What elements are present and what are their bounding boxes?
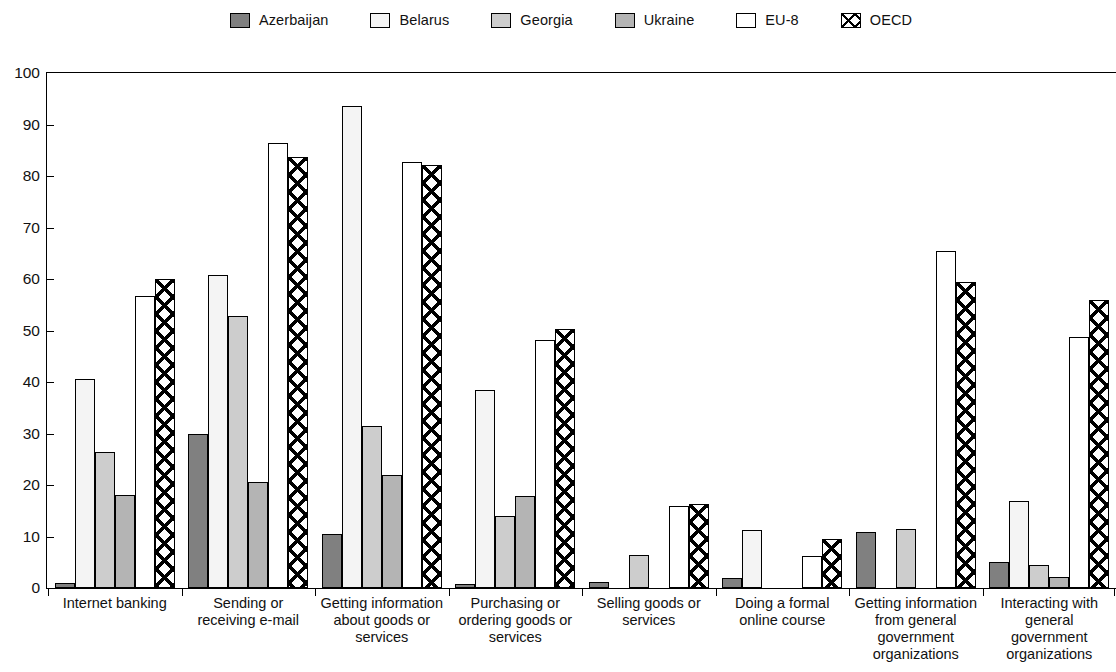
bar-belarus[interactable] (75, 379, 95, 588)
y-axis-tick-label: 90 (2, 117, 40, 133)
bar-georgia[interactable] (629, 555, 649, 588)
legend-item-azerbaijan[interactable]: Azerbaijan (230, 13, 329, 28)
x-axis-category-label-line: Purchasing or (449, 595, 583, 612)
legend-item-georgia[interactable]: Georgia (491, 13, 572, 28)
x-axis-category-label: Internet banking (48, 595, 182, 612)
x-axis-category-label-line: Selling goods or (582, 595, 716, 612)
legend-label-georgia: Georgia (520, 13, 572, 28)
x-axis-category-label-line: Doing a formal (716, 595, 850, 612)
bar-azerbaijan[interactable] (188, 434, 208, 588)
y-axis-tick-label: 80 (2, 168, 40, 184)
x-axis-category-label: Getting informationfrom generalgovernmen… (849, 595, 983, 663)
bar-oecd[interactable] (155, 279, 175, 589)
x-axis-category-label: Purchasing orordering goods orservices (449, 595, 583, 646)
bar-eu8[interactable] (936, 251, 956, 588)
bar-ukraine[interactable] (515, 496, 535, 588)
bar-eu8[interactable] (135, 296, 155, 588)
bar-azerbaijan[interactable] (322, 534, 342, 588)
bar-oecd[interactable] (822, 539, 842, 588)
bar-belarus[interactable] (1009, 501, 1029, 588)
bar-group (322, 73, 442, 588)
bar-group (856, 73, 976, 588)
x-axis-category-label-line: organizations (849, 646, 983, 663)
bar-eu8[interactable] (268, 143, 288, 588)
legend-label-eu8: EU-8 (765, 13, 798, 28)
bar-oecd[interactable] (689, 504, 709, 588)
y-axis-tick-mark (46, 228, 54, 229)
legend-label-belarus: Belarus (399, 13, 449, 28)
bar-oecd[interactable] (1089, 300, 1109, 588)
bar-belarus[interactable] (742, 530, 762, 588)
bar-ukraine[interactable] (248, 482, 268, 588)
legend-item-oecd[interactable]: OECD (841, 13, 912, 28)
bar-ukraine[interactable] (1049, 577, 1069, 588)
bar-eu8[interactable] (802, 556, 822, 588)
bar-azerbaijan[interactable] (856, 532, 876, 588)
legend-swatch-ukraine-icon (615, 13, 635, 28)
bar-ukraine[interactable] (115, 495, 135, 588)
chart-legend: AzerbaijanBelarusGeorgiaUkraineEU-8OECD (0, 0, 1116, 40)
y-axis-tick-mark (46, 485, 54, 486)
bar-belarus[interactable] (475, 390, 495, 588)
bar-oecd[interactable] (422, 165, 442, 588)
legend-item-belarus[interactable]: Belarus (370, 13, 449, 28)
bar-belarus[interactable] (342, 106, 362, 588)
plot-area (48, 73, 1116, 588)
x-axis-tick-mark (1114, 588, 1115, 596)
bar-group (722, 73, 842, 588)
x-axis-category-label-line: receiving e-mail (182, 612, 316, 629)
bar-azerbaijan[interactable] (722, 578, 742, 588)
bar-azerbaijan[interactable] (55, 583, 75, 588)
legend-swatch-belarus-icon (370, 13, 390, 28)
y-axis-tick-label: 40 (2, 374, 40, 390)
bar-azerbaijan[interactable] (455, 584, 475, 588)
bar-georgia[interactable] (1029, 565, 1049, 588)
y-axis-tick-label: 60 (2, 271, 40, 287)
x-axis-category-label-line: general (983, 612, 1116, 629)
x-axis-category-label-line: Interacting with (983, 595, 1116, 612)
x-axis-category-label: Selling goods orservices (582, 595, 716, 629)
bar-eu8[interactable] (402, 162, 422, 588)
y-axis-tick-mark (46, 434, 54, 435)
legend-item-eu8[interactable]: EU-8 (736, 13, 798, 28)
x-axis-category-label-line: Getting information (849, 595, 983, 612)
legend-swatch-azerbaijan-icon (230, 13, 250, 28)
legend-label-azerbaijan: Azerbaijan (259, 13, 329, 28)
x-axis-category-label: Doing a formalonline course (716, 595, 850, 629)
bar-oecd[interactable] (288, 157, 308, 588)
bar-eu8[interactable] (669, 506, 689, 588)
bar-eu8[interactable] (535, 340, 555, 588)
bar-georgia[interactable] (896, 529, 916, 588)
y-axis-tick-mark (46, 125, 54, 126)
bar-azerbaijan[interactable] (989, 562, 1009, 588)
bar-eu8[interactable] (1069, 337, 1089, 588)
grouped-bar-chart: AzerbaijanBelarusGeorgiaUkraineEU-8OECD … (0, 0, 1116, 672)
y-axis-tick-label: 0 (2, 580, 40, 596)
bar-group (188, 73, 308, 588)
bar-georgia[interactable] (228, 316, 248, 588)
x-axis-category-label-line: Sending or (182, 595, 316, 612)
y-axis-tick-label: 70 (2, 220, 40, 236)
x-axis-category-label: Interacting withgeneralgovernmentorganiz… (983, 595, 1116, 663)
x-axis-category-label-line: from general (849, 612, 983, 629)
y-axis-tick-mark (46, 537, 54, 538)
y-axis-tick-mark (46, 382, 54, 383)
legend-swatch-oecd-icon (841, 13, 861, 28)
bar-group (589, 73, 709, 588)
bar-georgia[interactable] (362, 426, 382, 588)
bar-ukraine[interactable] (382, 475, 402, 588)
y-axis-labels: 0102030405060708090100 (0, 0, 40, 672)
bar-georgia[interactable] (95, 452, 115, 588)
legend-item-ukraine[interactable]: Ukraine (615, 13, 695, 28)
x-axis-category-label-line: about goods or (315, 612, 449, 629)
bar-georgia[interactable] (495, 516, 515, 588)
bar-oecd[interactable] (956, 282, 976, 588)
bar-belarus[interactable] (208, 275, 228, 588)
bar-azerbaijan[interactable] (589, 582, 609, 588)
bar-group (989, 73, 1109, 588)
bar-group (455, 73, 575, 588)
y-axis-tick-mark (46, 331, 54, 332)
bar-oecd[interactable] (555, 329, 575, 588)
legend-swatch-eu8-icon (736, 13, 756, 28)
x-axis-category-label-line: services (582, 612, 716, 629)
